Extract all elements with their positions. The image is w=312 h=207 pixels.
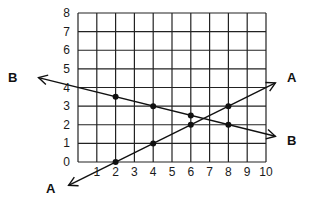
y-tick-label: 0 xyxy=(63,155,70,169)
y-tick-label: 1 xyxy=(63,136,70,150)
x-tick-label: 10 xyxy=(259,165,273,179)
x-tick-label: 8 xyxy=(225,165,232,179)
line-b-start-label: B xyxy=(8,70,17,85)
line-b-end-label: B xyxy=(287,133,296,148)
data-point xyxy=(188,112,194,118)
x-tick-label: 5 xyxy=(169,165,176,179)
x-tick-label: 2 xyxy=(112,165,119,179)
x-tick-label: 9 xyxy=(244,165,251,179)
data-point xyxy=(113,159,119,165)
data-lines xyxy=(39,75,276,186)
y-tick-label: 8 xyxy=(63,6,70,20)
data-point xyxy=(225,103,231,109)
y-tick-label: 3 xyxy=(63,99,70,113)
y-tick-label: 7 xyxy=(63,25,70,39)
line-a-start-label: A xyxy=(46,181,56,196)
line-chart: 012345678 12345678910 B A B A xyxy=(0,0,312,207)
line-b xyxy=(39,78,276,137)
y-tick-label: 6 xyxy=(63,43,70,57)
data-point xyxy=(188,122,194,128)
y-tick-label: 5 xyxy=(63,62,70,76)
y-tick-label: 4 xyxy=(63,81,70,95)
x-tick-label: 7 xyxy=(206,165,213,179)
x-tick-label: 3 xyxy=(131,165,138,179)
grid xyxy=(78,13,266,162)
data-point xyxy=(225,122,231,128)
x-tick-label: 4 xyxy=(150,165,157,179)
data-point xyxy=(150,140,156,146)
y-axis-ticks: 012345678 xyxy=(63,6,70,169)
data-point xyxy=(113,94,119,100)
x-axis-ticks: 12345678910 xyxy=(93,165,273,179)
x-tick-label: 6 xyxy=(187,165,194,179)
y-tick-label: 2 xyxy=(63,118,70,132)
line-a-end-label: A xyxy=(287,70,297,85)
data-point xyxy=(150,103,156,109)
